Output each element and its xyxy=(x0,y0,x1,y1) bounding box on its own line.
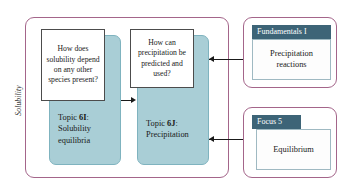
topic-6j-title: Precipitation xyxy=(146,130,189,139)
panel-body-focus-5: Equilibrium xyxy=(256,129,331,170)
panel-body-fundamentals-i: Precipitation reactions xyxy=(252,39,331,80)
topic-card-6i-label: Topic 6I:Solubility equilibria xyxy=(58,112,120,146)
panel-header-focus-5: Focus 5 xyxy=(252,115,301,129)
panel-body-text-fundamentals-i: Precipitation reactions xyxy=(255,48,328,70)
question-text-6i: How does solubility depend on any other … xyxy=(45,44,101,86)
topic-6i-suffix: : xyxy=(87,113,89,122)
panel-body-text-focus-5: Equilibrium xyxy=(273,144,313,155)
question-box-6j: How can precipitation be predicted and u… xyxy=(130,29,194,88)
topic-6i-code: 6I xyxy=(79,113,86,122)
question-text-6j: How can precipitation be predicted and u… xyxy=(134,38,190,80)
connector-line xyxy=(209,139,243,140)
panel-header-fundamentals-i: Fundamentals I xyxy=(252,25,331,39)
arrow-left-icon xyxy=(209,56,214,62)
topic-6i-title: Solubility equilibria xyxy=(58,124,91,144)
topic-card-6j-label: Topic 6J:Precipitation xyxy=(146,118,208,141)
arrow-left-icon xyxy=(209,136,214,142)
diagram-canvas: Solubility Topic 6I:Solubility equilibri… xyxy=(0,0,344,191)
topic-6j-prefix: Topic xyxy=(146,119,167,128)
arrow-right-icon xyxy=(131,97,136,103)
side-panel-focus-5[interactable]: Focus 5 Equilibrium xyxy=(243,107,337,178)
question-box-6i: How does solubility depend on any other … xyxy=(41,29,105,101)
axis-label-solubility: Solubility xyxy=(14,66,23,136)
side-panel-fundamentals-i[interactable]: Fundamentals I Precipitation reactions xyxy=(243,17,337,88)
topic-6i-prefix: Topic xyxy=(58,113,79,122)
connector-line xyxy=(209,59,243,60)
topic-6j-suffix: : xyxy=(175,119,177,128)
